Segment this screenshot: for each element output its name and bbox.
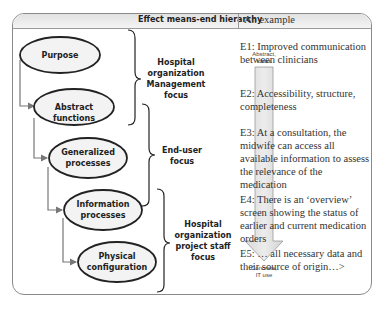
focus-end-user: End-user focus bbox=[152, 145, 212, 167]
example-e2: E2: Accessibility, structure, completene… bbox=[240, 87, 370, 113]
focus-project-staff: Hospital organization project staff focu… bbox=[168, 219, 238, 263]
level-physical-configuration: Physical configuration bbox=[80, 251, 154, 273]
example-e4: E4: There is an ‘overview’ screen showin… bbox=[240, 193, 370, 245]
level-purpose: Purpose bbox=[30, 50, 90, 61]
example-e3: E3: At a consultation, the midwife can a… bbox=[240, 126, 370, 191]
example-e5: E5: … all necessary data and their sourc… bbox=[240, 247, 370, 273]
level-information-processes: Information processes bbox=[68, 199, 138, 221]
example-e1: E1: Improved communication between clini… bbox=[240, 40, 370, 66]
level-abstract-functions: Abstract functions bbox=[34, 102, 114, 124]
focus-management: Hospital organization Management focus bbox=[140, 57, 212, 101]
level-generalized-processes: Generalized processes bbox=[53, 147, 123, 169]
